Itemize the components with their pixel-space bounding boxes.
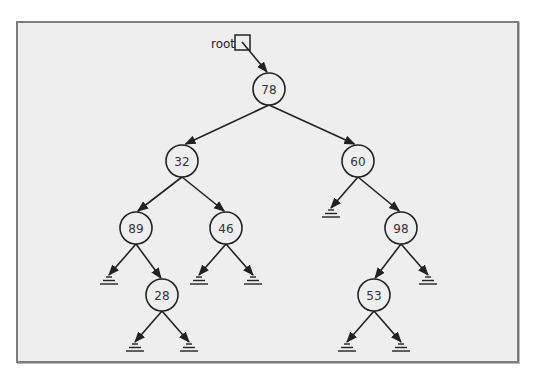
tree-node-98: 98	[385, 212, 417, 244]
node-value: 32	[174, 155, 189, 169]
null-icon	[322, 210, 340, 217]
null-icon	[100, 277, 118, 284]
root-pointer-arrow	[242, 42, 267, 72]
node-value: 60	[350, 155, 365, 169]
null-icon	[244, 277, 262, 284]
edge-89-28	[136, 244, 161, 278]
edge-46-right-null	[226, 244, 253, 275]
null-icon	[338, 344, 356, 351]
node-value: 98	[393, 222, 408, 236]
binary-tree-diagram: 7832608946982853 root	[0, 0, 538, 377]
edge-98-right-null	[401, 244, 428, 275]
null-icon	[392, 344, 410, 351]
node-value: 89	[128, 222, 143, 236]
edge-60-left-null	[331, 177, 358, 208]
edge-60-98	[358, 177, 399, 211]
edge-46-left-null	[199, 244, 226, 275]
tree-node-46: 46	[210, 212, 242, 244]
node-value: 28	[154, 289, 169, 303]
null-icon	[190, 277, 208, 284]
edge-53-left-null	[347, 311, 374, 342]
edge-32-89	[138, 177, 182, 211]
tree-node-89: 89	[120, 212, 152, 244]
edge-78-32	[185, 105, 269, 144]
tree-node-32: 32	[166, 145, 198, 177]
edge-32-46	[182, 177, 224, 211]
null-icon	[180, 344, 198, 351]
root-label: root	[211, 37, 235, 51]
tree-node-28: 28	[146, 279, 178, 311]
edge-89-left-null	[109, 244, 136, 275]
edge-28-right-null	[162, 311, 189, 342]
edge-53-right-null	[374, 311, 401, 342]
nodes: 7832608946982853	[120, 73, 417, 311]
tree-node-60: 60	[342, 145, 374, 177]
root-pointer: root	[211, 35, 267, 72]
node-value: 46	[218, 222, 233, 236]
tree-node-53: 53	[358, 279, 390, 311]
node-value: 78	[261, 83, 276, 97]
tree-node-78: 78	[253, 73, 285, 105]
node-value: 53	[366, 289, 381, 303]
edge-98-53	[375, 244, 401, 278]
edge-28-left-null	[135, 311, 162, 342]
null-icon	[126, 344, 144, 351]
edge-78-60	[269, 105, 354, 144]
null-icon	[419, 277, 437, 284]
